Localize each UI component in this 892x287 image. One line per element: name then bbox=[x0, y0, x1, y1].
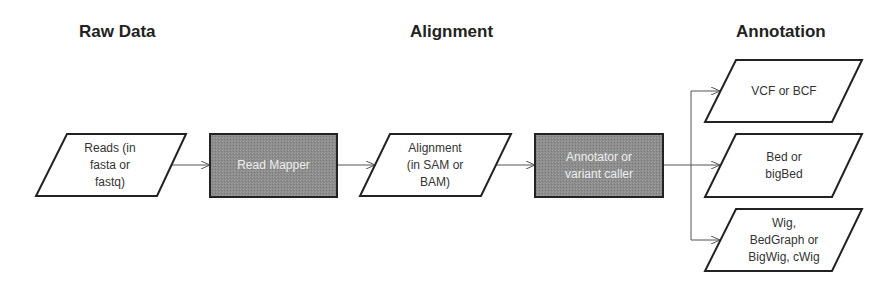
alignment-line2: (in SAM or bbox=[407, 157, 464, 174]
bed-line1: Bed or bbox=[765, 149, 802, 166]
wig-line1: Wig, bbox=[748, 215, 819, 232]
alignment-line3: BAM) bbox=[407, 174, 464, 191]
vcf-label: VCF or BCF bbox=[751, 83, 816, 100]
reads-line2: fasta or bbox=[84, 157, 135, 174]
wig-line3: BigWig, cWig bbox=[748, 249, 819, 266]
wig-line2: BedGraph or bbox=[748, 232, 819, 249]
node-reads: Reads (in fasta or fastq) bbox=[60, 134, 160, 196]
reads-line3: fastq) bbox=[84, 174, 135, 191]
node-vcf: VCF or BCF bbox=[733, 60, 835, 122]
node-wig: Wig, BedGraph or BigWig, cWig bbox=[733, 209, 835, 271]
node-annotator: Annotator or variant caller bbox=[535, 134, 663, 197]
node-read-mapper: Read Mapper bbox=[210, 134, 337, 197]
alignment-line1: Alignment bbox=[407, 140, 464, 157]
reads-line1: Reads (in bbox=[84, 140, 135, 157]
node-alignment: Alignment (in SAM or BAM) bbox=[385, 134, 485, 196]
read-mapper-label: Read Mapper bbox=[237, 157, 310, 174]
annotator-line1: Annotator or bbox=[565, 149, 633, 166]
annotator-line2: variant caller bbox=[565, 166, 633, 183]
node-bed: Bed or bigBed bbox=[733, 134, 835, 197]
bed-line2: bigBed bbox=[765, 166, 802, 183]
